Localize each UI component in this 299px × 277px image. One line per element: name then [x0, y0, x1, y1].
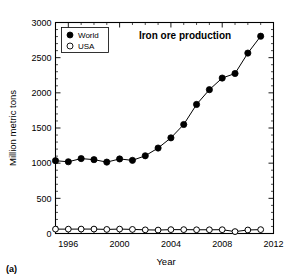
data-point	[142, 153, 148, 159]
figure-panel: 050010001500200025003000 199620002004200…	[0, 0, 299, 277]
x-tick-label: 1996	[58, 239, 78, 249]
data-point	[78, 226, 84, 232]
legend-marker-usa	[67, 43, 73, 49]
legend-marker-world	[67, 32, 73, 38]
data-point	[117, 226, 123, 232]
data-point	[245, 50, 251, 56]
y-tick-label: 1000	[31, 158, 51, 168]
data-point	[78, 155, 84, 161]
legend-label-usa: USA	[78, 42, 95, 51]
legend-label-world: World	[78, 31, 99, 40]
x-tick-label: 2000	[110, 239, 130, 249]
data-point	[155, 227, 161, 233]
data-point	[193, 101, 199, 107]
y-axis-tick-labels: 050010001500200025003000	[31, 18, 51, 239]
data-point	[219, 227, 225, 233]
data-point	[232, 229, 238, 235]
data-point	[219, 75, 225, 81]
data-point	[142, 227, 148, 233]
x-tick-label: 2004	[161, 239, 181, 249]
chart-legend: World USA	[62, 28, 109, 53]
data-point	[181, 227, 187, 233]
y-tick-label: 1500	[31, 123, 51, 133]
plot-frame	[56, 23, 274, 234]
data-point	[104, 227, 110, 233]
y-tick-label: 0	[46, 229, 51, 239]
x-tick-label: 2012	[263, 239, 283, 249]
data-series-layer	[52, 33, 263, 234]
data-point	[206, 227, 212, 233]
data-point	[181, 121, 187, 127]
y-tick-label: 2500	[31, 53, 51, 63]
series-world	[52, 33, 263, 165]
data-point	[245, 227, 251, 233]
y-axis-ticks	[56, 23, 274, 234]
x-tick-label: 2008	[212, 239, 232, 249]
y-tick-label: 3000	[31, 18, 51, 28]
x-axis-tick-labels: 19962000200420082012	[58, 239, 283, 249]
data-point	[65, 159, 71, 165]
chart-title: Iron ore production	[139, 30, 231, 41]
data-point	[206, 87, 212, 93]
data-point	[232, 70, 238, 76]
panel-label: (a)	[6, 264, 17, 274]
x-axis-minor-ticks	[56, 23, 261, 234]
y-tick-label: 2000	[31, 88, 51, 98]
series-line	[56, 36, 261, 162]
data-point	[65, 226, 71, 232]
data-point	[91, 157, 97, 163]
y-axis-minor-ticks	[56, 30, 274, 227]
data-point	[155, 145, 161, 151]
x-axis-title: Year	[156, 256, 175, 267]
data-point	[104, 159, 110, 165]
data-point	[91, 226, 97, 232]
data-point	[194, 227, 200, 233]
y-tick-label: 500	[36, 194, 51, 204]
data-point	[258, 33, 264, 39]
data-point	[168, 135, 174, 141]
data-point	[168, 227, 174, 233]
data-point	[53, 226, 59, 232]
iron-ore-production-chart: 050010001500200025003000 199620002004200…	[0, 0, 299, 277]
data-point	[130, 227, 136, 233]
data-point	[258, 227, 264, 233]
data-point	[129, 157, 135, 163]
data-point	[52, 158, 58, 164]
data-point	[117, 156, 123, 162]
x-axis-ticks	[68, 23, 273, 234]
y-axis-title: Million metric tons	[7, 90, 18, 166]
